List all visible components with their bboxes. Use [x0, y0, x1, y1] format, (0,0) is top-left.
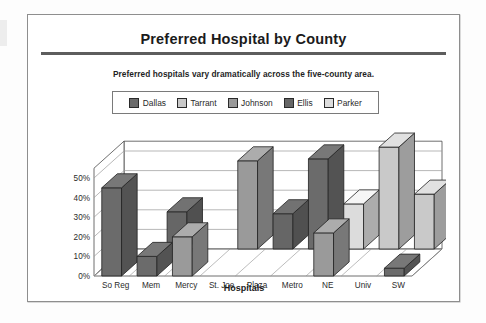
legend-swatch-tarrant [177, 98, 187, 108]
legend-item-ellis[interactable]: Ellis [284, 98, 313, 108]
svg-text:30%: 30% [74, 213, 90, 222]
title-divider [41, 52, 446, 55]
legend-item-dallas[interactable]: Dallas [129, 98, 166, 108]
svg-text:0%: 0% [78, 272, 90, 281]
page-canvas: Preferred Hospital by County Preferred h… [0, 0, 486, 323]
x-axis-title: Hospitals [42, 283, 446, 293]
chart-canvas: 0%10%20%30%40%50%So RegMemMercySt. JoePl… [42, 119, 446, 291]
scan-artifact [0, 20, 7, 46]
legend-label-ellis: Ellis [297, 98, 312, 108]
chart-subtitle: Preferred hospitals vary dramatically ac… [28, 69, 459, 79]
legend-swatch-dallas [129, 98, 139, 108]
legend-label-johnson: Johnson [241, 98, 273, 108]
legend-item-johnson[interactable]: Johnson [228, 98, 273, 108]
legend-label-parker: Parker [337, 98, 362, 108]
page-title: Preferred Hospital by County [28, 31, 459, 47]
svg-text:10%: 10% [74, 252, 90, 261]
legend-swatch-johnson [228, 98, 238, 108]
svg-text:40%: 40% [74, 194, 90, 203]
legend-swatch-parker [324, 98, 334, 108]
legend-item-tarrant[interactable]: Tarrant [177, 98, 217, 108]
legend-label-dallas: Dallas [143, 98, 166, 108]
chart-card: Preferred Hospital by County Preferred h… [27, 14, 460, 302]
legend-swatch-ellis [284, 98, 294, 108]
svg-text:20%: 20% [74, 233, 90, 242]
legend-label-tarrant: Tarrant [191, 98, 217, 108]
bar-chart-plot: 0%10%20%30%40%50%So RegMemMercySt. JoePl… [42, 119, 446, 291]
svg-text:50%: 50% [74, 174, 90, 183]
chart-legend: Dallas Tarrant Johnson Ellis Parker [112, 91, 379, 114]
legend-item-parker[interactable]: Parker [324, 98, 362, 108]
